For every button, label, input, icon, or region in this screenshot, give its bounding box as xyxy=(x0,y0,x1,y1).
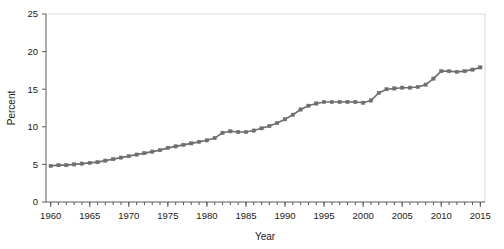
data-point-marker xyxy=(369,99,372,102)
data-point-marker xyxy=(252,129,255,132)
y-tick-label: 5 xyxy=(33,159,38,170)
x-tick-label: 1960 xyxy=(40,210,61,221)
data-point-marker xyxy=(72,163,75,166)
data-point-marker xyxy=(338,100,341,103)
x-tick-label: 1965 xyxy=(79,210,100,221)
data-point-marker xyxy=(244,130,247,133)
data-point-marker xyxy=(307,104,310,107)
data-point-marker xyxy=(276,121,279,124)
x-tick-label: 2000 xyxy=(353,210,374,221)
data-point-marker xyxy=(260,127,263,130)
x-tick-label: 2005 xyxy=(392,210,413,221)
data-point-marker xyxy=(283,118,286,121)
data-point-marker xyxy=(291,113,294,116)
x-tick-label: 1985 xyxy=(235,210,256,221)
y-tick-label: 10 xyxy=(27,121,38,132)
data-point-marker xyxy=(236,130,239,133)
data-point-marker xyxy=(88,161,91,164)
data-point-marker xyxy=(229,130,232,133)
data-point-marker xyxy=(127,154,130,157)
y-axis-title: Percent xyxy=(6,91,17,126)
x-tick-label: 1970 xyxy=(118,210,139,221)
data-point-marker xyxy=(330,100,333,103)
data-point-marker xyxy=(393,87,396,90)
data-point-marker xyxy=(479,66,482,69)
data-point-marker xyxy=(455,70,458,73)
data-point-marker xyxy=(205,139,208,142)
data-point-marker xyxy=(65,163,68,166)
data-point-marker xyxy=(268,124,271,127)
x-tick-label: 1990 xyxy=(274,210,295,221)
x-tick-label: 1980 xyxy=(196,210,217,221)
data-point-marker xyxy=(49,164,52,167)
data-point-marker xyxy=(151,150,154,153)
x-tick-label: 2010 xyxy=(431,210,452,221)
data-point-marker xyxy=(354,100,357,103)
data-point-marker xyxy=(401,86,404,89)
data-point-marker xyxy=(385,88,388,91)
data-point-marker xyxy=(119,156,122,159)
data-point-marker xyxy=(322,100,325,103)
data-point-marker xyxy=(408,86,411,89)
data-point-marker xyxy=(213,136,216,139)
data-point-marker xyxy=(463,69,466,72)
data-point-marker xyxy=(111,157,114,160)
data-point-marker xyxy=(143,151,146,154)
data-point-marker xyxy=(299,108,302,111)
x-tick-label: 1995 xyxy=(314,210,335,221)
data-point-marker xyxy=(471,68,474,71)
y-tick-label: 0 xyxy=(33,196,38,207)
data-point-marker xyxy=(182,143,185,146)
data-point-marker xyxy=(447,69,450,72)
x-axis-title: Year xyxy=(255,231,276,242)
data-point-marker xyxy=(190,142,193,145)
data-point-marker xyxy=(166,146,169,149)
chart-figure: 0510152025 Percent 196019651970197519801… xyxy=(0,0,504,249)
data-point-marker xyxy=(80,162,83,165)
data-point-marker xyxy=(440,69,443,72)
data-point-marker xyxy=(197,140,200,143)
data-point-marker xyxy=(424,83,427,86)
x-tick-label: 1975 xyxy=(157,210,178,221)
data-point-marker xyxy=(174,145,177,148)
data-point-marker xyxy=(346,100,349,103)
data-point-marker xyxy=(221,131,224,134)
data-point-marker xyxy=(104,159,107,162)
data-point-marker xyxy=(416,85,419,88)
y-tick-label: 20 xyxy=(27,46,38,57)
y-tick-label: 15 xyxy=(27,84,38,95)
x-tick-label: 2015 xyxy=(470,210,491,221)
data-point-marker xyxy=(135,153,138,156)
data-point-marker xyxy=(57,163,60,166)
data-point-marker xyxy=(158,148,161,151)
data-point-marker xyxy=(361,101,364,104)
data-point-marker xyxy=(96,160,99,163)
line-chart: 0510152025 Percent 196019651970197519801… xyxy=(0,0,504,249)
data-point-marker xyxy=(377,91,380,94)
y-tick-label: 25 xyxy=(27,8,38,19)
data-point-marker xyxy=(315,102,318,105)
data-point-marker xyxy=(432,77,435,80)
